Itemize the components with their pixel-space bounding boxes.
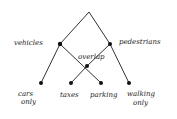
label-cars-only-line2: only — [21, 98, 36, 106]
edge-overlap-taxes — [71, 66, 87, 83]
edge-root-vehicles — [60, 12, 89, 44]
edge-root-pedestrians — [89, 12, 110, 44]
node-cars-only — [39, 81, 43, 85]
node-vehicles — [58, 42, 62, 46]
label-pedestrians: pedestrians — [119, 38, 161, 46]
label-walking-only-line2: only — [133, 99, 148, 107]
label-vehicles: vehicles — [14, 39, 43, 47]
node-parking — [99, 81, 103, 85]
edge-vehicles-overlap — [60, 44, 101, 83]
label-cars-only-line1: cars — [18, 90, 33, 98]
label-taxes: taxes — [60, 91, 79, 99]
edge-pedestrians-walking — [110, 44, 129, 83]
edge-vehicles-cars — [41, 44, 60, 83]
label-parking: parking — [90, 91, 117, 99]
node-walking-only — [127, 81, 131, 85]
node-taxes — [69, 81, 73, 85]
label-overlap: overlap — [78, 53, 105, 61]
node-pedestrians — [108, 42, 112, 46]
label-walking-only-line1: walking — [127, 90, 155, 98]
node-overlap — [85, 64, 89, 68]
